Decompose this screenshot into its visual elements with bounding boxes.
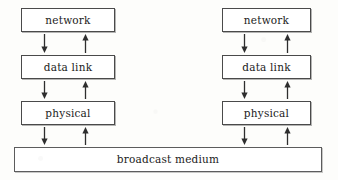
- left-datalink-to-network-up-arrow: [81, 34, 90, 53]
- left-stack-physical-label: physical: [45, 108, 90, 119]
- right-medium-to-physical-up-arrow: [283, 127, 292, 145]
- diagram-canvas: network data link physical: [0, 0, 338, 180]
- right-stack-physical-box: physical: [222, 101, 311, 125]
- left-stack-data-link-box: data link: [21, 55, 115, 79]
- right-stack-network-box: network: [222, 8, 311, 32]
- right-stack-network-label: network: [244, 15, 289, 26]
- left-stack-physical-box: physical: [21, 101, 115, 125]
- left-stack-network-box: network: [21, 8, 115, 32]
- right-stack-physical-label: physical: [244, 108, 289, 119]
- broadcast-medium-label: broadcast medium: [117, 154, 219, 165]
- right-datalink-to-physical-down-arrow: [240, 81, 249, 99]
- right-network-to-datalink-down-arrow: [240, 34, 249, 53]
- right-physical-to-datalink-up-arrow: [283, 81, 292, 99]
- broadcast-medium-box: broadcast medium: [14, 147, 322, 172]
- right-stack-data-link-label: data link: [242, 62, 290, 73]
- right-datalink-to-network-up-arrow: [283, 34, 292, 53]
- right-stack-data-link-box: data link: [222, 55, 311, 79]
- left-physical-to-datalink-up-arrow: [81, 81, 90, 99]
- left-network-to-datalink-down-arrow: [40, 34, 49, 53]
- left-physical-to-medium-down-arrow: [40, 127, 49, 145]
- right-physical-to-medium-down-arrow: [240, 127, 249, 145]
- left-medium-to-physical-up-arrow: [81, 127, 90, 145]
- left-datalink-to-physical-down-arrow: [40, 81, 49, 99]
- left-stack-network-label: network: [45, 15, 90, 26]
- left-stack-data-link-label: data link: [44, 62, 92, 73]
